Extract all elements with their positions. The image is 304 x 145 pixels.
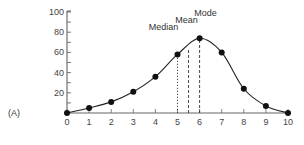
x-tick-label: 4 bbox=[153, 117, 158, 127]
data-point bbox=[64, 110, 70, 116]
data-point bbox=[241, 86, 247, 92]
data-point bbox=[263, 103, 269, 109]
x-tick-label: 8 bbox=[241, 117, 246, 127]
axes bbox=[67, 11, 290, 113]
y-tick-label: 80 bbox=[54, 27, 64, 37]
annotation-mode: Mode bbox=[194, 8, 217, 18]
y-tick-label: 20 bbox=[54, 88, 64, 98]
x-tick-label: 9 bbox=[263, 117, 268, 127]
x-tick-label: 6 bbox=[197, 117, 202, 127]
data-point bbox=[108, 99, 114, 105]
y-axis-ticks: 20406080100 bbox=[49, 7, 71, 103]
y-tick-label: 40 bbox=[54, 68, 64, 78]
data-point bbox=[285, 110, 291, 116]
x-tick-label: 2 bbox=[109, 117, 114, 127]
x-tick-label: 10 bbox=[283, 117, 293, 127]
data-point bbox=[152, 74, 158, 80]
data-point bbox=[197, 35, 203, 41]
data-point bbox=[219, 49, 225, 55]
panel-label: (A) bbox=[8, 108, 20, 118]
y-tick-label: 100 bbox=[49, 7, 64, 17]
x-tick-label: 1 bbox=[87, 117, 92, 127]
distribution-curve bbox=[67, 38, 288, 113]
annotation-median: Median bbox=[149, 22, 179, 32]
x-tick-label: 7 bbox=[219, 117, 224, 127]
annotation-labels: MedianMeanMode bbox=[149, 8, 217, 32]
x-tick-label: 5 bbox=[175, 117, 180, 127]
data-point bbox=[86, 105, 92, 111]
data-point bbox=[130, 89, 136, 95]
x-axis-ticks: 012345678910 bbox=[64, 109, 293, 127]
x-tick-label: 0 bbox=[64, 117, 69, 127]
reference-lines bbox=[178, 38, 200, 113]
y-tick-label: 60 bbox=[54, 47, 64, 57]
data-point bbox=[175, 51, 181, 57]
distribution-chart: (A) 20406080100 012345678910 MedianMeanM… bbox=[0, 0, 304, 145]
x-tick-label: 3 bbox=[131, 117, 136, 127]
